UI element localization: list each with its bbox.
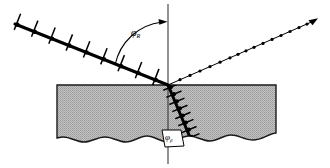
incident-ray <box>14 14 168 85</box>
phi-refraction-subscript: β <box>170 138 173 143</box>
optics-refraction-figure: φR φβ <box>0 0 330 168</box>
reflected-ray-arrowhead <box>309 18 319 25</box>
phi-incidence-subscript: R <box>137 33 141 39</box>
reflected-ray <box>168 18 318 85</box>
angle-of-refraction-label: φβ <box>165 133 172 143</box>
incident-ray-shaft <box>15 24 168 85</box>
angle-of-incidence-label: φR <box>131 28 140 39</box>
angle-arc-arrowhead <box>159 19 168 25</box>
